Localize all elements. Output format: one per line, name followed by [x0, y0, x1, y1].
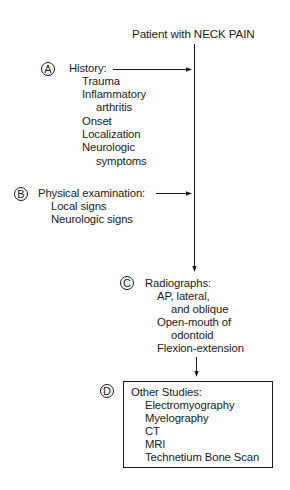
radiograph-item-oblique: and oblique [171, 303, 228, 316]
study-item-myelography: Myelography [145, 412, 209, 425]
radiograph-item-ap-lateral: AP, lateral, [157, 290, 210, 303]
step-c-heading: Radiographs: [145, 277, 211, 290]
radiograph-item-odontoid: odontoid [171, 329, 214, 342]
history-item-localization: Localization [82, 128, 140, 141]
step-b-marker: B [14, 187, 28, 201]
history-item-arthritis: arthritis [96, 101, 132, 114]
history-item-trauma: Trauma [82, 75, 120, 88]
study-item-ct: CT [145, 425, 160, 438]
step-d-heading: Other Studies: [131, 386, 202, 399]
exam-item-local-signs: Local signs [51, 200, 106, 213]
study-item-technetium-bone-scan: Technetium Bone Scan [145, 451, 259, 464]
neck-pain-flowchart: Patient with NECK PAIN A History: Trauma… [0, 0, 290, 490]
history-item-symptoms: symptoms [96, 155, 147, 168]
radiograph-item-flexion-extension: Flexion-extension [157, 342, 244, 355]
study-item-mri: MRI [145, 438, 165, 451]
study-item-electromyography: Electromyography [145, 399, 234, 412]
step-a-heading: History: [69, 62, 107, 75]
step-c-marker: C [120, 276, 134, 290]
step-d-marker: D [100, 384, 114, 398]
history-item-neurologic: Neurologic [82, 141, 135, 154]
radiograph-item-open-mouth: Open-mouth of [157, 316, 231, 329]
history-item-onset: Onset [82, 115, 112, 128]
step-b-heading: Physical examination: [38, 187, 145, 200]
history-item-inflammatory: Inflammatory [82, 88, 146, 101]
exam-item-neurologic-signs: Neurologic signs [51, 213, 133, 226]
step-a-marker: A [41, 62, 55, 76]
flowchart-title: Patient with NECK PAIN [132, 27, 255, 40]
